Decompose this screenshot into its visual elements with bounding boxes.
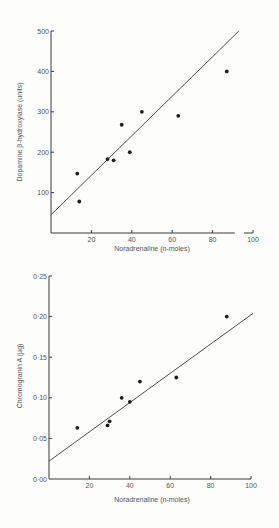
data-point	[225, 315, 229, 319]
data-point	[75, 426, 79, 430]
x-tick-label: 100	[245, 482, 257, 489]
y-axis-title: Chromogranin A (μg)	[16, 344, 24, 409]
data-points	[75, 315, 228, 430]
y-tick-label: 0·05	[33, 435, 47, 442]
data-point	[120, 396, 124, 400]
x-tick-label: 80	[207, 482, 215, 489]
y-tick-label: 0·20	[33, 313, 47, 320]
y-tick-label: 0·25	[33, 273, 47, 280]
y-tick-label: 0·00	[33, 476, 47, 483]
chromogranin-vs-noradrenaline-chart: 0·000·050·100·150·200·25 20406080100 Nor…	[0, 0, 279, 528]
y-tick-label: 0·10	[33, 394, 47, 401]
y-tick-label: 0·15	[33, 354, 47, 361]
x-axis-title: Noradrenaline (n-moles)	[114, 496, 189, 504]
data-point	[128, 400, 132, 404]
regression-line	[49, 313, 253, 461]
x-axis: 20406080100	[49, 476, 257, 489]
data-point	[174, 376, 178, 380]
x-tick-label: 20	[86, 482, 94, 489]
y-axis: 0·000·050·100·150·200·25	[33, 273, 52, 483]
x-tick-label: 40	[126, 482, 134, 489]
x-tick-label: 60	[166, 482, 174, 489]
data-point	[138, 380, 142, 384]
data-point	[106, 424, 110, 428]
data-point	[108, 419, 112, 423]
